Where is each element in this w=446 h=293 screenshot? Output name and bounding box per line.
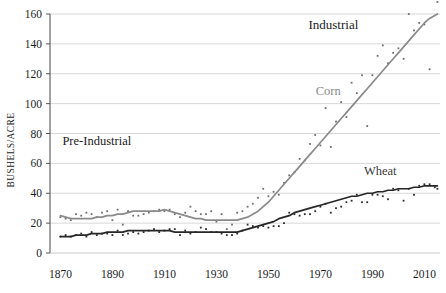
y-tick-label: 140 xyxy=(25,38,43,50)
x-tick-label: 1950 xyxy=(257,268,280,280)
x-tick-label: 2010 xyxy=(413,268,436,280)
data-point xyxy=(361,74,363,76)
data-point xyxy=(382,44,384,46)
data-point xyxy=(377,55,379,57)
data-point xyxy=(236,233,238,235)
data-point xyxy=(278,225,280,227)
data-point xyxy=(106,210,108,212)
data-point xyxy=(361,201,363,203)
data-point xyxy=(434,186,436,188)
data-point xyxy=(86,236,88,238)
data-point xyxy=(351,82,353,84)
data-point xyxy=(158,231,160,233)
data-point xyxy=(247,224,249,226)
data-point xyxy=(403,58,405,60)
data-point xyxy=(314,210,316,212)
y-axis-title: BUSHELS/ACRE xyxy=(6,112,16,187)
data-point xyxy=(268,227,270,229)
data-point xyxy=(288,174,290,176)
data-point xyxy=(424,183,426,185)
scatter-points xyxy=(60,0,439,237)
data-point xyxy=(65,234,67,236)
data-point xyxy=(122,224,124,226)
data-point xyxy=(179,216,181,218)
data-point xyxy=(299,158,301,160)
data-point xyxy=(330,212,332,214)
data-point xyxy=(75,213,77,215)
data-point xyxy=(437,188,439,190)
data-point xyxy=(356,92,358,94)
data-point xyxy=(179,234,181,236)
data-point xyxy=(392,52,394,54)
data-point xyxy=(403,200,405,202)
data-point xyxy=(117,209,119,211)
data-point xyxy=(138,233,140,235)
data-point xyxy=(299,215,301,217)
y-tick-label: 120 xyxy=(25,68,43,80)
y-tick-label: 0 xyxy=(36,247,42,259)
data-point xyxy=(174,228,176,230)
trend-lines xyxy=(60,14,437,237)
data-point xyxy=(309,213,311,215)
data-point xyxy=(372,194,374,196)
data-point xyxy=(372,74,374,76)
data-point xyxy=(273,225,275,227)
data-point xyxy=(429,183,431,185)
data-point xyxy=(190,206,192,208)
data-point xyxy=(382,195,384,197)
x-tick-label: 1910 xyxy=(153,268,176,280)
data-point xyxy=(340,101,342,103)
data-point xyxy=(200,213,202,215)
data-point xyxy=(335,207,337,209)
data-point xyxy=(340,206,342,208)
data-point xyxy=(437,1,439,3)
y-tick-label: 100 xyxy=(25,98,43,110)
y-tick-label: 80 xyxy=(31,128,43,140)
chart-annotations: IndustrialPre-IndustrialCornWheat xyxy=(62,17,397,178)
data-point xyxy=(169,228,171,230)
data-point xyxy=(418,22,420,24)
data-point xyxy=(262,188,264,190)
data-point xyxy=(96,234,98,236)
data-point xyxy=(132,231,134,233)
data-point xyxy=(127,233,129,235)
data-point xyxy=(377,194,379,196)
data-point xyxy=(143,213,145,215)
data-point xyxy=(205,213,207,215)
data-point xyxy=(148,212,150,214)
data-point xyxy=(132,215,134,217)
data-point xyxy=(226,228,228,230)
data-point xyxy=(210,210,212,212)
data-point xyxy=(288,212,290,214)
data-point xyxy=(91,231,93,233)
x-tick-label: 1930 xyxy=(205,268,228,280)
data-point xyxy=(351,200,353,202)
data-point xyxy=(283,222,285,224)
data-point xyxy=(278,194,280,196)
data-point xyxy=(86,212,88,214)
data-point xyxy=(314,134,316,136)
y-tick-label: 160 xyxy=(25,8,43,20)
data-point xyxy=(205,228,207,230)
data-point xyxy=(252,203,254,205)
data-point xyxy=(138,215,140,217)
annotation-corn: Corn xyxy=(316,84,342,98)
data-point xyxy=(247,206,249,208)
data-point xyxy=(143,231,145,233)
data-point xyxy=(216,221,218,223)
chart-canvas: 020406080100120140160 187018901910193019… xyxy=(0,0,446,293)
data-point xyxy=(309,143,311,145)
data-point xyxy=(80,215,82,217)
data-point xyxy=(320,145,322,147)
annotation-industrial: Industrial xyxy=(308,17,358,32)
data-point xyxy=(273,191,275,193)
data-point xyxy=(325,107,327,109)
data-point xyxy=(153,228,155,230)
data-point xyxy=(413,194,415,196)
annotation-wheat: Wheat xyxy=(364,164,397,178)
data-point xyxy=(236,212,238,214)
data-point xyxy=(304,213,306,215)
x-axis-tick-labels: 18701890191019301950197019902010 xyxy=(49,268,436,280)
x-tick-label: 1890 xyxy=(101,268,124,280)
x-tick-label: 1990 xyxy=(361,268,384,280)
